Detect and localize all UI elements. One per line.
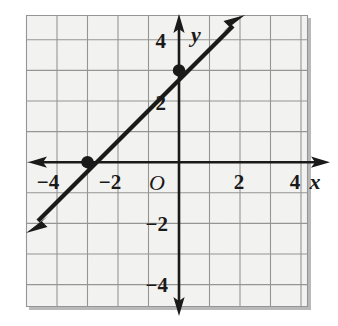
y-tick-label-4: 4: [156, 29, 167, 53]
graph-canvas: −4 −2 2 4 4 2 −2 −4 O x y: [0, 0, 338, 326]
point-y-intercept: [173, 64, 185, 76]
x-tick-label--4: −4: [37, 170, 60, 194]
y-tick-label--4: −4: [146, 273, 169, 297]
y-tick-label-2: 2: [156, 91, 167, 115]
origin-label: O: [149, 170, 165, 195]
x-tick-label--2: −2: [99, 170, 121, 194]
point-x-intercept: [81, 156, 93, 168]
x-axis-name: x: [309, 169, 321, 194]
y-tick-label--2: −2: [146, 212, 168, 236]
coordinate-graph-figure: −4 −2 2 4 4 2 −2 −4 O x y: [0, 0, 338, 326]
x-tick-label-4: 4: [290, 170, 301, 194]
x-tick-label-2: 2: [234, 170, 245, 194]
